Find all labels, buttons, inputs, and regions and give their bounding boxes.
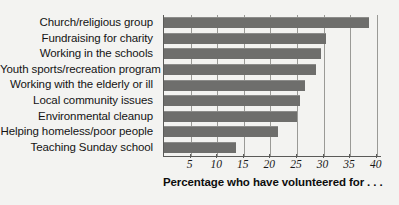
category-label: Local community issues xyxy=(0,93,158,109)
category-label: Teaching Sunday school xyxy=(0,140,158,156)
category-label: Church/religious group xyxy=(0,15,158,31)
bar-row xyxy=(164,62,381,78)
bar xyxy=(164,142,236,153)
bar xyxy=(164,33,326,44)
plot-area xyxy=(163,15,381,157)
bar-row xyxy=(164,109,381,125)
x-tick-label: 15 xyxy=(237,158,249,170)
category-label: Youth sports/recreation program xyxy=(0,62,158,78)
bar-row xyxy=(164,15,381,31)
x-axis: 510152025303540 xyxy=(163,158,381,174)
bar xyxy=(164,95,300,106)
category-label: Fundraising for charity xyxy=(0,31,158,47)
bar-row xyxy=(164,46,381,62)
x-tick-label: 25 xyxy=(290,158,302,170)
category-label: Working in the schools xyxy=(0,46,158,62)
bar-chart: Church/religious group Fundraising for c… xyxy=(0,0,399,205)
bar xyxy=(164,48,321,59)
bar xyxy=(164,126,278,137)
bar-row xyxy=(164,93,381,109)
bar-series xyxy=(164,15,381,157)
bar-row xyxy=(164,31,381,47)
bar xyxy=(164,17,369,28)
x-tick-label: 10 xyxy=(210,158,222,170)
bar xyxy=(164,80,305,91)
category-label: Working with the elderly or ill xyxy=(0,77,158,93)
bar-row xyxy=(164,124,381,140)
x-axis-title: Percentage who have volunteered for . . … xyxy=(163,176,399,188)
x-tick-label: 5 xyxy=(187,158,193,170)
category-label: Environmental cleanup xyxy=(0,109,158,125)
x-tick-label: 20 xyxy=(264,158,276,170)
bar-row xyxy=(164,77,381,93)
x-tick-label: 35 xyxy=(343,158,355,170)
bar xyxy=(164,64,316,75)
category-label: Helping homeless/poor people xyxy=(0,124,158,140)
bar-row xyxy=(164,140,381,156)
category-label-column: Church/religious group Fundraising for c… xyxy=(0,15,158,157)
bar xyxy=(164,111,297,122)
x-tick-label: 30 xyxy=(317,158,329,170)
x-tick-label: 40 xyxy=(370,158,382,170)
